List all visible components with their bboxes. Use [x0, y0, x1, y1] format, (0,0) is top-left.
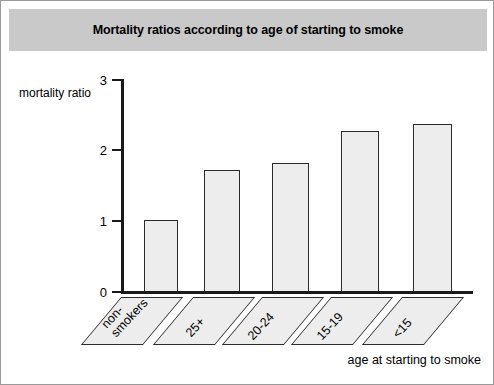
bar-20-24: [272, 163, 309, 291]
y-tick-mark-3: [112, 79, 121, 81]
figure-frame: Mortality ratios according to age of sta…: [0, 0, 494, 385]
y-tick-label-3: 3: [83, 73, 107, 88]
y-tick-label-1: 1: [83, 214, 107, 229]
y-axis-line: [121, 79, 124, 293]
plot-area: mortality ratio 0 1 2 3 non- smokers: [1, 1, 494, 385]
y-tick-mark-1: [112, 220, 121, 222]
bar-25-plus: [204, 170, 240, 291]
y-tick-mark-2: [112, 149, 121, 151]
bar-15-19: [341, 131, 379, 291]
bar-non-smokers: [144, 220, 178, 291]
y-tick-label-2: 2: [83, 143, 107, 158]
y-axis-label: mortality ratio: [19, 86, 91, 100]
y-tick-label-0: 0: [83, 285, 107, 300]
x-axis-title: age at starting to smoke: [348, 353, 481, 367]
bar-under-15: [413, 124, 452, 291]
y-tick-mark-0: [112, 291, 121, 293]
x-axis-line: [121, 291, 473, 294]
